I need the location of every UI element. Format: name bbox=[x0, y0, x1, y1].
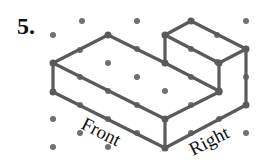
edge-line bbox=[165, 63, 219, 91]
grid-dot bbox=[162, 88, 168, 94]
vertex-dot bbox=[188, 18, 195, 25]
grid-dot bbox=[50, 32, 56, 38]
vertex-dot bbox=[162, 116, 169, 123]
vertex-dot bbox=[216, 60, 223, 67]
vertex-dot bbox=[243, 46, 250, 53]
vertex-dot bbox=[243, 102, 250, 109]
vertex-dot bbox=[50, 89, 57, 96]
grid-dot bbox=[79, 18, 85, 24]
vertex-dot bbox=[105, 32, 112, 39]
grid-dot bbox=[243, 130, 249, 136]
edge-line bbox=[219, 49, 246, 63]
grid-dot bbox=[243, 18, 249, 24]
vertex-dot bbox=[162, 60, 169, 67]
edge-line bbox=[165, 92, 219, 119]
grid-dot bbox=[134, 74, 140, 80]
grid-dot bbox=[105, 60, 111, 66]
vertex-dot bbox=[162, 32, 169, 39]
edge-line bbox=[165, 35, 219, 63]
vertex-dot bbox=[162, 145, 169, 152]
edge-line bbox=[165, 21, 191, 35]
edge-line bbox=[108, 35, 165, 63]
front-label: Front bbox=[78, 113, 125, 151]
right-label: Right bbox=[185, 121, 233, 159]
grid-dot bbox=[50, 144, 56, 150]
edge-line bbox=[191, 21, 246, 49]
isometric-drawing: Front Right bbox=[0, 0, 268, 160]
edge-line bbox=[53, 63, 165, 119]
grid-dot bbox=[50, 116, 56, 122]
grid-dot bbox=[134, 18, 140, 24]
vertex-dot bbox=[50, 60, 57, 67]
vertex-dot bbox=[216, 88, 223, 95]
edge-line bbox=[53, 35, 108, 63]
